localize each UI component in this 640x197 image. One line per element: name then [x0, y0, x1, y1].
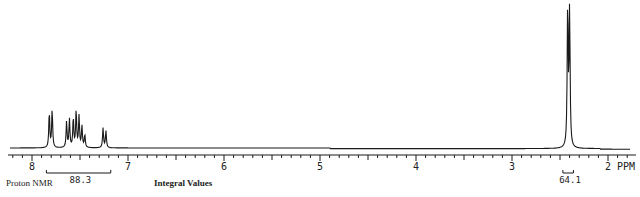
integral-values-title: Integral Values — [154, 178, 213, 188]
x-tick-label: 4 — [413, 161, 419, 172]
nmr-spectrum-chart: 8765432 PPM 88.364.1 Proton NMR Integral… — [0, 0, 640, 197]
x-tick-label: 2 PPM — [605, 161, 635, 172]
x-tick-label: 8 — [29, 161, 35, 172]
x-tick-label: 6 — [221, 161, 227, 172]
x-tick-label: 5 — [317, 161, 323, 172]
x-tick-label: 3 — [509, 161, 515, 172]
integral-value: 64.1 — [559, 175, 581, 185]
ppm-axis: 8765432 PPM — [8, 155, 636, 172]
spectrum-trace — [10, 4, 630, 149]
x-tick-label: 7 — [125, 161, 131, 172]
integral-markers: 88.364.1 — [46, 170, 580, 185]
integral-value: 88.3 — [70, 175, 92, 185]
proton-nmr-label: Proton NMR — [6, 178, 53, 188]
